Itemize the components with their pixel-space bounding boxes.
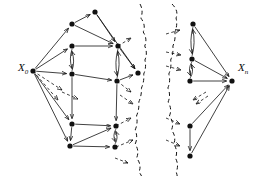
graph-edge — [190, 64, 192, 77]
graph-node — [67, 143, 72, 148]
graph-edge — [192, 29, 194, 55]
figure-canvas: X0 Xn — [0, 0, 260, 176]
graph-edge-stub — [120, 95, 133, 104]
graph-edge — [192, 85, 228, 124]
graph-edge — [36, 49, 68, 69]
graph-edge — [35, 74, 69, 120]
graph-node — [114, 78, 119, 83]
graph-edge-stub — [62, 92, 78, 99]
graph-node — [190, 21, 195, 26]
graph-edge-stub — [166, 52, 181, 55]
graph-edge — [73, 128, 111, 145]
graph-edge — [70, 49, 72, 68]
graph-node — [115, 43, 120, 48]
break-line — [168, 4, 178, 176]
graph-node — [69, 43, 74, 48]
graph-edge — [75, 25, 113, 43]
graph-edge-stub — [116, 140, 133, 147]
graph-edge — [73, 146, 109, 147]
graph-edge-stub — [115, 158, 128, 163]
break-line-layer — [135, 4, 177, 176]
edge-layer — [33, 14, 229, 163]
graph-edge — [34, 74, 67, 141]
graph-node — [112, 144, 117, 149]
graph-edge — [116, 49, 118, 75]
graph-edge — [120, 49, 135, 69]
graph-edge — [114, 129, 116, 141]
graph-edge — [72, 51, 74, 70]
graph-node — [187, 153, 192, 158]
graph-edge — [117, 51, 119, 77]
graph-node — [229, 78, 234, 83]
graph-edge-stub — [117, 81, 131, 92]
graph-edge — [195, 61, 227, 79]
graph-edge — [192, 86, 230, 153]
graph-edge-stub — [196, 96, 208, 104]
graph-node — [69, 71, 74, 76]
graph-node — [187, 123, 192, 128]
graph-node — [69, 21, 74, 26]
graph-edge — [70, 127, 71, 140]
directed-graph — [0, 0, 260, 176]
graph-edge — [116, 84, 117, 120]
graph-edge — [115, 131, 117, 143]
node-label-x0: X0 — [18, 62, 28, 76]
graph-node — [30, 68, 35, 73]
graph-node — [135, 70, 140, 75]
node-label-xn: Xn — [238, 62, 248, 76]
graph-edge — [189, 62, 191, 75]
graph-edge-stub — [166, 30, 180, 34]
graph-edge — [120, 75, 133, 80]
graph-node — [187, 78, 192, 83]
graph-node — [92, 9, 97, 14]
graph-edge-stub — [166, 140, 180, 146]
graph-edge — [191, 27, 193, 53]
break-line — [135, 4, 146, 176]
graph-edge — [75, 74, 112, 80]
graph-edge — [75, 124, 110, 126]
graph-node — [113, 123, 118, 128]
graph-edge-stub — [166, 66, 181, 70]
graph-node — [69, 121, 74, 126]
node-layer — [30, 9, 234, 158]
graph-edge-stub — [193, 92, 206, 100]
graph-node — [189, 56, 194, 61]
graph-edge — [35, 28, 69, 68]
graph-edge — [75, 14, 90, 22]
graph-edge — [195, 27, 229, 77]
graph-edge-stub — [166, 118, 180, 124]
graph-edge — [36, 71, 66, 73]
